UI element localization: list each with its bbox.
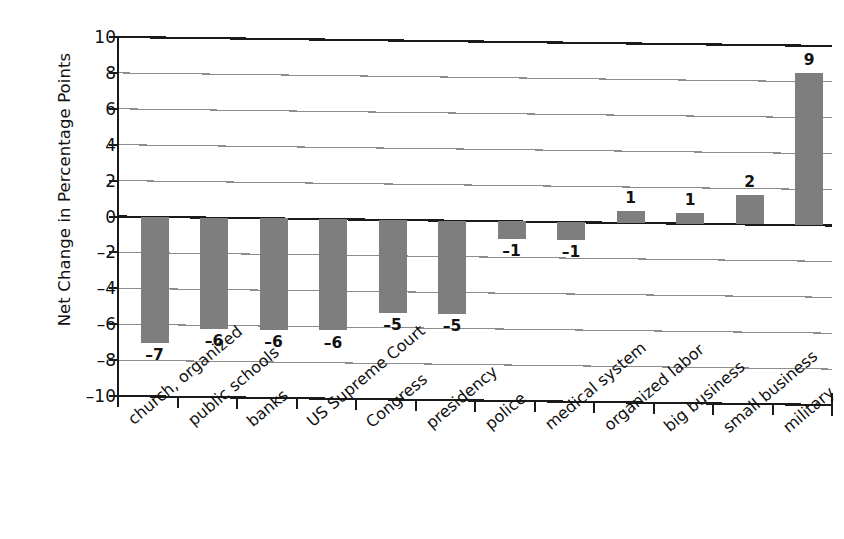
bar: [438, 221, 466, 314]
bar: [617, 211, 645, 223]
gridline-10: [118, 37, 832, 46]
bar-value-label: –5: [443, 317, 462, 335]
y-axis-ticks: [109, 37, 118, 396]
gridline-6: [118, 109, 832, 118]
bar: [676, 213, 704, 224]
plot-area: [0, 0, 844, 539]
bar-value-label: 1: [685, 191, 696, 209]
bar: [319, 219, 347, 330]
bar: [260, 218, 288, 329]
bar-value-label: 2: [744, 173, 755, 191]
bar: [379, 220, 407, 313]
gridline-2: [118, 181, 832, 190]
bar-value-label: –1: [562, 243, 581, 261]
bar: [498, 221, 526, 239]
bar-value-label: –1: [502, 242, 521, 260]
bar: [557, 222, 585, 240]
bar-value-label: 1: [625, 189, 636, 207]
bar: [795, 73, 823, 226]
gridline-8: [118, 73, 832, 82]
bar: [736, 195, 764, 225]
bar: [200, 218, 228, 329]
bar-value-label: –7: [145, 346, 164, 364]
bar-value-label: –6: [324, 334, 343, 352]
bar-chart: Net Change in Percentage Points 1086420–…: [0, 0, 844, 539]
bar-value-label: –5: [383, 316, 402, 334]
gridline-4: [118, 145, 832, 154]
bar: [141, 217, 169, 343]
bar-value-label: 9: [804, 51, 815, 69]
